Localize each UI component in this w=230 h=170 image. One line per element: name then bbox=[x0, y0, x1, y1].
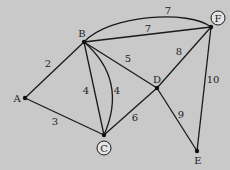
weight-label-F-E: 10 bbox=[207, 74, 220, 85]
node-label-F: F bbox=[215, 13, 222, 24]
weight-label-C-D: 6 bbox=[132, 112, 138, 123]
node-dot-E bbox=[195, 149, 199, 153]
node-label-E: E bbox=[194, 155, 201, 166]
weight-label-B-F-curved: 7 bbox=[165, 5, 171, 16]
node-dot-F bbox=[209, 25, 213, 29]
node-label-D: D bbox=[153, 74, 161, 85]
node-label-C: C bbox=[100, 143, 108, 154]
weights-layer: 2 3 4 4 5 6 7 7 8 9 10 bbox=[45, 5, 220, 127]
weight-label-D-E: 9 bbox=[178, 109, 184, 120]
graph-canvas: 2 3 4 4 5 6 7 7 8 9 10 A B C D bbox=[0, 0, 230, 170]
weight-label-B-F-straight: 7 bbox=[145, 23, 151, 34]
node-dot-D bbox=[155, 86, 159, 90]
node-dot-C bbox=[102, 133, 106, 137]
edge-D-F bbox=[157, 27, 211, 88]
edges-layer bbox=[25, 17, 211, 151]
node-label-A: A bbox=[12, 93, 21, 104]
node-dot-A bbox=[23, 96, 27, 100]
edge-B-D bbox=[84, 42, 157, 88]
edge-A-C bbox=[25, 98, 104, 135]
weight-label-B-C-straight: 4 bbox=[83, 85, 89, 96]
graph-diagram: 2 3 4 4 5 6 7 7 8 9 10 A B C D bbox=[0, 0, 230, 170]
edge-F-E bbox=[197, 27, 211, 151]
node-label-B: B bbox=[78, 28, 85, 39]
weight-label-D-F: 8 bbox=[176, 46, 182, 57]
weight-label-A-B: 2 bbox=[45, 58, 51, 69]
edge-A-B bbox=[25, 42, 84, 98]
node-dot-B bbox=[82, 40, 86, 44]
weight-label-B-C-curved: 4 bbox=[114, 85, 120, 96]
weight-label-B-D: 5 bbox=[125, 53, 131, 64]
weight-label-A-C: 3 bbox=[52, 116, 58, 127]
